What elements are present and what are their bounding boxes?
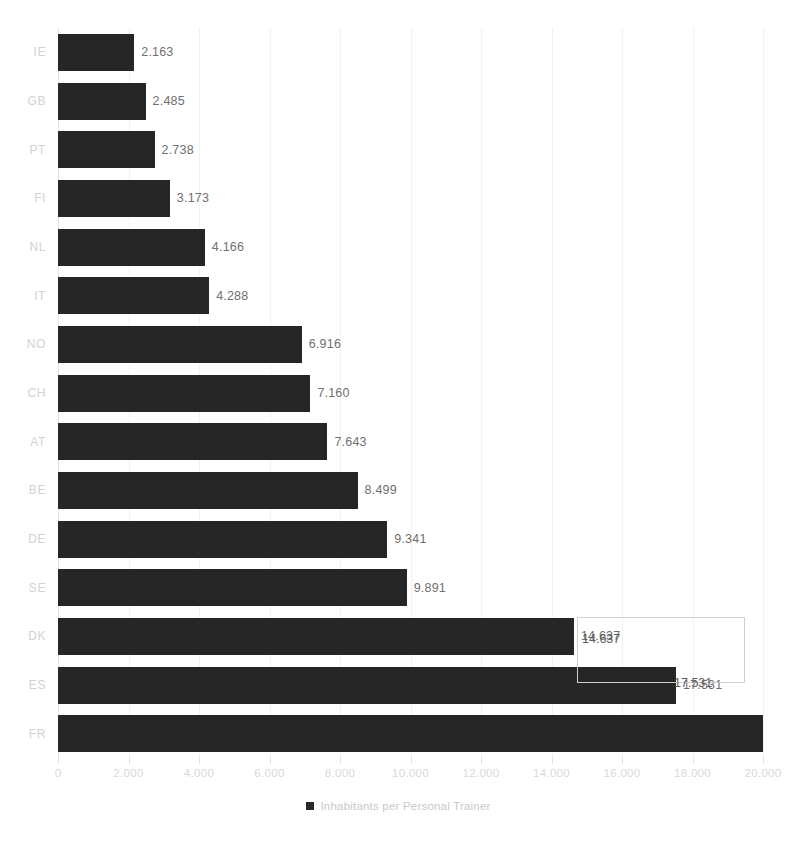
x-axis-tick	[411, 758, 412, 764]
x-axis-tick	[340, 758, 341, 764]
chart-legend[interactable]: Inhabitants per Personal Trainer	[0, 800, 797, 812]
x-axis-tick	[129, 758, 130, 764]
x-axis-tick	[693, 758, 694, 764]
bar-chart: IEGBPTFINLITNOCHATBEDESEDKESFR 2.1632.48…	[0, 0, 797, 841]
y-axis-label-gb: GB	[27, 94, 46, 108]
x-axis-tick-label: 16.000	[604, 767, 641, 779]
x-axis-tick-label: 14.000	[533, 767, 570, 779]
bar[interactable]	[58, 131, 155, 168]
legend-label: Inhabitants per Personal Trainer	[320, 800, 490, 812]
y-axis-category-labels: IEGBPTFINLITNOCHATBEDESEDKESFR	[0, 28, 58, 758]
bar-value-label: 2.163	[141, 45, 173, 59]
bar-row[interactable]: 14.637	[58, 612, 763, 661]
bar-value-label: 14.637	[581, 629, 620, 643]
gridline	[763, 28, 764, 758]
y-axis-label-ie: IE	[33, 45, 46, 59]
legend-swatch-icon	[306, 802, 314, 810]
y-axis-label-es: ES	[29, 678, 46, 692]
y-axis-label-pt: PT	[29, 143, 46, 157]
bar[interactable]	[58, 229, 205, 266]
bar[interactable]	[58, 277, 209, 314]
x-axis-tick	[270, 758, 271, 764]
y-axis-label-ch: CH	[27, 386, 46, 400]
x-axis-tick	[481, 758, 482, 764]
bar[interactable]	[58, 472, 358, 509]
x-axis-tick-label: 18.000	[674, 767, 711, 779]
bar-row[interactable]: 9.341	[58, 515, 763, 564]
bar-value-label: 6.916	[309, 337, 341, 351]
x-axis-tick	[763, 758, 764, 764]
bar-row[interactable]: 7.160	[58, 369, 763, 418]
y-axis-label-de: DE	[28, 532, 46, 546]
x-axis-tick	[58, 758, 59, 764]
bar[interactable]	[58, 34, 134, 71]
bar-value-label: 2.485	[153, 94, 185, 108]
y-axis-label-at: AT	[30, 435, 46, 449]
y-axis-label-fi: FI	[34, 191, 46, 205]
bar-row[interactable]: 6.916	[58, 320, 763, 369]
y-axis-label-se: SE	[29, 581, 46, 595]
bar-value-label: 3.173	[177, 191, 209, 205]
bar-value-label: 4.288	[216, 289, 248, 303]
x-axis-tick-label: 4.000	[184, 767, 214, 779]
bar[interactable]	[58, 667, 676, 704]
bar-value-label: 7.643	[334, 435, 366, 449]
bar-row[interactable]: 8.499	[58, 466, 763, 515]
y-axis-label-dk: DK	[28, 629, 46, 643]
plot-area: 2.1632.4852.7383.1734.1664.2886.9167.160…	[58, 28, 763, 758]
y-axis-label-it: IT	[34, 289, 46, 303]
x-axis-tick-label: 8.000	[325, 767, 355, 779]
bar[interactable]	[58, 715, 763, 752]
bar[interactable]	[58, 618, 574, 655]
bar-value-label: 2.738	[162, 143, 194, 157]
bar-row[interactable]: 4.288	[58, 271, 763, 320]
x-axis-tick-label: 0	[55, 767, 62, 779]
y-axis-label-nl: NL	[29, 240, 46, 254]
x-axis-tick-label: 10.000	[392, 767, 429, 779]
bar-row[interactable]: 4.166	[58, 223, 763, 272]
x-axis-tick-label: 20.000	[745, 767, 782, 779]
bar-row[interactable]: 3.173	[58, 174, 763, 223]
bar-value-label: 4.166	[212, 240, 244, 254]
x-axis-tick	[622, 758, 623, 764]
bar[interactable]	[58, 180, 170, 217]
bar-row[interactable]	[58, 709, 763, 758]
y-axis-label-no: NO	[27, 337, 46, 351]
bar[interactable]	[58, 83, 146, 120]
bar[interactable]	[58, 569, 407, 606]
bar[interactable]	[58, 423, 327, 460]
bar-row[interactable]: 2.485	[58, 77, 763, 126]
bar[interactable]	[58, 375, 310, 412]
bar-value-label: 9.341	[394, 532, 426, 546]
bar-value-label: 17.531	[683, 678, 722, 692]
bar-row[interactable]: 2.163	[58, 28, 763, 77]
y-axis-label-fr: FR	[29, 727, 46, 741]
bar[interactable]	[58, 521, 387, 558]
bar-value-label: 7.160	[317, 386, 349, 400]
x-axis-tick	[199, 758, 200, 764]
bar-row[interactable]: 17.531	[58, 661, 763, 710]
x-axis-tick-label: 12.000	[463, 767, 500, 779]
y-axis-label-be: BE	[29, 483, 46, 497]
x-axis-tick-label: 6.000	[254, 767, 284, 779]
bar-row[interactable]: 7.643	[58, 417, 763, 466]
x-axis-tick-label: 2.000	[113, 767, 143, 779]
bar-value-label: 9.891	[414, 581, 446, 595]
bar-row[interactable]: 9.891	[58, 563, 763, 612]
bar[interactable]	[58, 326, 302, 363]
bar-row[interactable]: 2.738	[58, 125, 763, 174]
x-axis: 02.0004.0006.0008.00010.00012.00014.0001…	[58, 758, 763, 784]
bar-value-label: 8.499	[365, 483, 397, 497]
x-axis-tick	[552, 758, 553, 764]
